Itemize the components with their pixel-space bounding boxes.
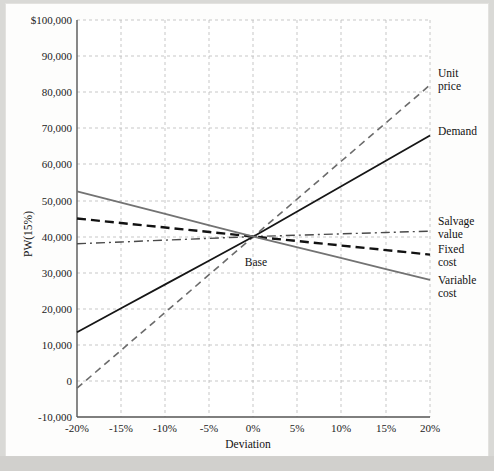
series-label-fixed-cost: Fixed	[438, 243, 464, 255]
x-tick: -15%	[109, 422, 133, 434]
x-tick: 15%	[376, 422, 396, 434]
x-tick: -10%	[153, 422, 177, 434]
series-label-variable-cost: Variable	[438, 274, 476, 286]
y-tick-labels: $100,000 90,000 80,000 70,000 60,000 50,…	[31, 14, 73, 423]
series-label-demand: Demand	[438, 125, 477, 137]
x-tick: -5%	[200, 422, 218, 434]
page-edge	[0, 456, 494, 471]
y-tick: $100,000	[31, 14, 73, 26]
plot-background	[77, 20, 430, 417]
y-tick: 40,000	[42, 231, 73, 243]
series-label-fixed-cost-line2: cost	[438, 256, 457, 268]
x-tick: 20%	[420, 422, 440, 434]
y-tick: 20,000	[42, 303, 73, 315]
x-axis-title: Deviation	[225, 438, 271, 450]
sensitivity-chart: $100,000 90,000 80,000 70,000 60,000 50,…	[6, 4, 488, 456]
series-label-unit-price-line2: price	[438, 80, 461, 93]
y-tick: 90,000	[42, 50, 73, 62]
series-label-unit-price: Unit	[438, 67, 459, 79]
x-tick: 10%	[331, 422, 351, 434]
x-tick: 0%	[246, 422, 261, 434]
series-labels: UnitpriceDemandSalvagevalueFixedcostVari…	[438, 67, 477, 299]
series-label-salvage-value: Salvage	[438, 215, 474, 228]
chart-svg: $100,000 90,000 80,000 70,000 60,000 50,…	[6, 4, 488, 456]
x-tick-labels: -20% -15% -10% -5% 0% 5% 10% 15% 20%	[65, 422, 440, 434]
y-tick: 80,000	[42, 86, 73, 98]
y-tick: 60,000	[42, 158, 73, 170]
series-label-salvage-value-line2: value	[438, 228, 463, 240]
y-tick: 30,000	[42, 267, 73, 279]
figure-card: $100,000 90,000 80,000 70,000 60,000 50,…	[6, 4, 488, 456]
base-annotation: Base	[245, 256, 267, 268]
y-tick: 10,000	[42, 339, 73, 351]
y-axis-title: PW(15%)	[22, 211, 35, 257]
y-tick: 0	[67, 375, 73, 387]
x-tick: -20%	[65, 422, 89, 434]
y-tick: 70,000	[42, 122, 73, 134]
series-label-variable-cost-line2: cost	[438, 287, 457, 299]
y-tick: 50,000	[42, 195, 73, 207]
x-tick: 5%	[290, 422, 305, 434]
